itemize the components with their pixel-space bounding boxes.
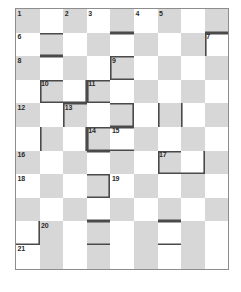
grid-cell-r8c9[interactable] — [205, 174, 229, 198]
grid-cell-r9c5[interactable] — [110, 198, 134, 222]
grid-cell-r1c5[interactable] — [110, 9, 134, 33]
grid-cell-r5c4[interactable] — [87, 103, 111, 127]
grid-cell-r7c7[interactable]: 17 — [158, 151, 182, 175]
grid-cell-r9c7[interactable] — [158, 198, 182, 222]
grid-cell-r6c3[interactable] — [63, 127, 87, 151]
grid-cell-r9c3[interactable] — [63, 198, 87, 222]
grid-cell-r9c6[interactable] — [134, 198, 158, 222]
grid-cell-r1c8[interactable] — [181, 9, 205, 33]
grid-cell-r9c1[interactable] — [16, 198, 40, 222]
grid-cell-r2c8[interactable] — [181, 33, 205, 57]
grid-cell-r3c6[interactable] — [134, 56, 158, 80]
grid-cell-r8c2[interactable] — [40, 174, 64, 198]
grid-cell-r4c6[interactable] — [134, 80, 158, 104]
grid-cell-r6c2[interactable] — [40, 127, 64, 151]
grid-cell-r11c2[interactable] — [40, 245, 64, 269]
grid-cell-r2c3[interactable] — [63, 33, 87, 57]
grid-cell-r6c6[interactable] — [134, 127, 158, 151]
grid-cell-r5c1[interactable]: 12 — [16, 103, 40, 127]
grid-cell-r2c6[interactable] — [134, 33, 158, 57]
grid-cell-r9c9[interactable] — [205, 198, 229, 222]
grid-cell-r7c6[interactable] — [134, 151, 158, 175]
grid-cell-r3c2[interactable] — [40, 56, 64, 80]
grid-cell-r8c8[interactable] — [181, 174, 205, 198]
grid-cell-r5c3[interactable]: 13 — [63, 103, 87, 127]
grid-cell-r8c4[interactable] — [87, 174, 111, 198]
grid-cell-r6c4[interactable]: 14 — [87, 127, 111, 151]
grid-cell-r2c7[interactable] — [158, 33, 182, 57]
grid-cell-r8c3[interactable] — [63, 174, 87, 198]
grid-cell-r7c1[interactable]: 16 — [16, 151, 40, 175]
grid-cell-r11c7[interactable] — [158, 245, 182, 269]
grid-cell-r3c8[interactable] — [181, 56, 205, 80]
grid-cell-r6c8[interactable] — [181, 127, 205, 151]
grid-cell-r4c8[interactable] — [181, 80, 205, 104]
grid-cell-r1c1[interactable]: 1 — [16, 9, 40, 33]
grid-cell-r5c9[interactable] — [205, 103, 229, 127]
grid-cell-r1c2[interactable] — [40, 9, 64, 33]
grid-cell-r6c9[interactable] — [205, 127, 229, 151]
grid-cell-r6c5[interactable]: 15 — [110, 127, 134, 151]
grid-cell-r10c5[interactable] — [110, 221, 134, 245]
grid-cell-r3c4[interactable] — [87, 56, 111, 80]
grid-cell-r3c1[interactable]: 8 — [16, 56, 40, 80]
grid-cell-r11c4[interactable] — [87, 245, 111, 269]
grid-cell-r11c5[interactable] — [110, 245, 134, 269]
grid-cell-r2c4[interactable] — [87, 33, 111, 57]
grid-cell-r4c1[interactable] — [16, 80, 40, 104]
grid-cell-r10c7[interactable] — [158, 221, 182, 245]
grid-cell-r7c3[interactable] — [63, 151, 87, 175]
grid-cell-r2c2[interactable] — [40, 33, 64, 57]
grid-cell-r4c3[interactable] — [63, 80, 87, 104]
grid-cell-r10c9[interactable] — [205, 221, 229, 245]
grid-cell-r8c6[interactable] — [134, 174, 158, 198]
grid-cell-r11c1[interactable]: 21 — [16, 245, 40, 269]
grid-cell-r5c8[interactable] — [181, 103, 205, 127]
grid-cell-r3c3[interactable] — [63, 56, 87, 80]
grid-cell-r11c8[interactable] — [181, 245, 205, 269]
grid-cell-r5c5[interactable] — [110, 103, 134, 127]
grid-cell-r4c5[interactable] — [110, 80, 134, 104]
grid-cell-r3c7[interactable] — [158, 56, 182, 80]
grid-cell-r1c4[interactable]: 3 — [87, 9, 111, 33]
grid-cell-r8c7[interactable] — [158, 174, 182, 198]
grid-cell-r10c6[interactable] — [134, 221, 158, 245]
grid-cell-r9c2[interactable] — [40, 198, 64, 222]
grid-cell-r9c8[interactable] — [181, 198, 205, 222]
grid-cell-r2c1[interactable]: 6 — [16, 33, 40, 57]
grid-cell-r4c9[interactable] — [205, 80, 229, 104]
grid-cell-r5c2[interactable] — [40, 103, 64, 127]
grid-cell-r10c1[interactable] — [16, 221, 40, 245]
grid-cell-r11c9[interactable] — [205, 245, 229, 269]
grid-cell-r5c7[interactable] — [158, 103, 182, 127]
grid-cell-r11c6[interactable] — [134, 245, 158, 269]
grid-cell-r7c9[interactable] — [205, 151, 229, 175]
grid-cell-r10c4[interactable] — [87, 221, 111, 245]
grid-cell-r2c5[interactable] — [110, 33, 134, 57]
crossword-grid[interactable]: 123456789101112131415161718192021 — [15, 8, 229, 270]
grid-cell-r1c6[interactable]: 4 — [134, 9, 158, 33]
grid-cell-r5c6[interactable] — [134, 103, 158, 127]
grid-cell-r1c7[interactable]: 5 — [158, 9, 182, 33]
grid-cell-r10c8[interactable] — [181, 221, 205, 245]
grid-cell-r7c8[interactable] — [181, 151, 205, 175]
grid-cell-r1c9[interactable] — [205, 9, 229, 33]
grid-cell-r8c1[interactable]: 18 — [16, 174, 40, 198]
grid-cell-r10c2[interactable]: 20 — [40, 221, 64, 245]
grid-cell-r9c4[interactable] — [87, 198, 111, 222]
grid-cell-r10c3[interactable] — [63, 221, 87, 245]
grid-cell-r3c9[interactable] — [205, 56, 229, 80]
grid-cell-r11c3[interactable] — [63, 245, 87, 269]
grid-cell-r1c3[interactable]: 2 — [63, 9, 87, 33]
grid-cell-r8c5[interactable]: 19 — [110, 174, 134, 198]
grid-cell-r7c4[interactable] — [87, 151, 111, 175]
grid-cell-r6c1[interactable] — [16, 127, 40, 151]
grid-cell-r4c2[interactable]: 10 — [40, 80, 64, 104]
grid-cell-r6c7[interactable] — [158, 127, 182, 151]
grid-cell-r3c5[interactable]: 9 — [110, 56, 134, 80]
grid-cell-r4c4[interactable]: 11 — [87, 80, 111, 104]
grid-cell-r7c2[interactable] — [40, 151, 64, 175]
grid-cell-r2c9[interactable]: 7 — [205, 33, 229, 57]
grid-cell-r7c5[interactable] — [110, 151, 134, 175]
grid-cell-r4c7[interactable] — [158, 80, 182, 104]
